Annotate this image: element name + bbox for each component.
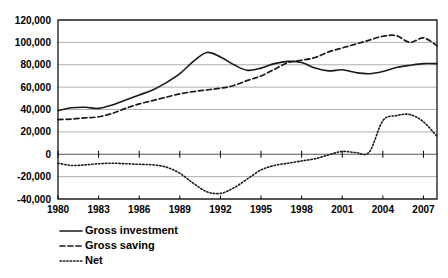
- line-chart-figure: 120,000100,00080,00060,00040,00020,0000-…: [0, 0, 448, 278]
- x-tick-label-1989: 1989: [169, 204, 192, 215]
- plot-gridlines: [58, 20, 437, 199]
- chart-container: 120,000100,00080,00060,00040,00020,0000-…: [0, 0, 448, 278]
- series-line-gross-investment: [58, 52, 437, 110]
- x-tick-label-1998: 1998: [291, 204, 314, 215]
- y-tick-label-40000: 40,000: [20, 104, 51, 115]
- x-tick-label-2004: 2004: [372, 204, 395, 215]
- y-axis-tick-labels: 120,000100,00080,00060,00040,00020,0000-…: [15, 15, 52, 205]
- y-tick-label-60000: 60,000: [20, 82, 51, 93]
- y-tick-label-100000: 100,000: [15, 37, 52, 48]
- y-tick-label-80000: 80,000: [20, 59, 51, 70]
- legend-label-gross-saving: Gross saving: [85, 239, 155, 251]
- series-line-gross-saving: [58, 35, 437, 119]
- x-tick-label-2007: 2007: [412, 204, 435, 215]
- y-tick-label-20000: 20,000: [20, 126, 51, 137]
- chart-legend: Gross investmentGross savingNet: [60, 224, 178, 266]
- y-tick-label-0: 0: [45, 149, 51, 160]
- x-tick-label-1995: 1995: [250, 204, 273, 215]
- legend-label-net: Net: [85, 254, 103, 266]
- y-tick-label-120000: 120,000: [15, 15, 52, 26]
- legend-label-gross-investment: Gross investment: [85, 224, 178, 236]
- data-series-group: [58, 35, 437, 193]
- y-tick-label--40000: -40,000: [17, 194, 51, 205]
- x-tick-label-2001: 2001: [331, 204, 354, 215]
- x-tick-label-1986: 1986: [128, 204, 151, 215]
- x-axis-ticks: [58, 151, 423, 199]
- x-tick-label-1983: 1983: [87, 204, 110, 215]
- x-tick-label-1992: 1992: [209, 204, 232, 215]
- x-axis-tick-labels: 1980198319861989199219951998200120042007: [47, 204, 435, 215]
- y-tick-label--20000: -20,000: [17, 171, 51, 182]
- x-tick-label-1980: 1980: [47, 204, 70, 215]
